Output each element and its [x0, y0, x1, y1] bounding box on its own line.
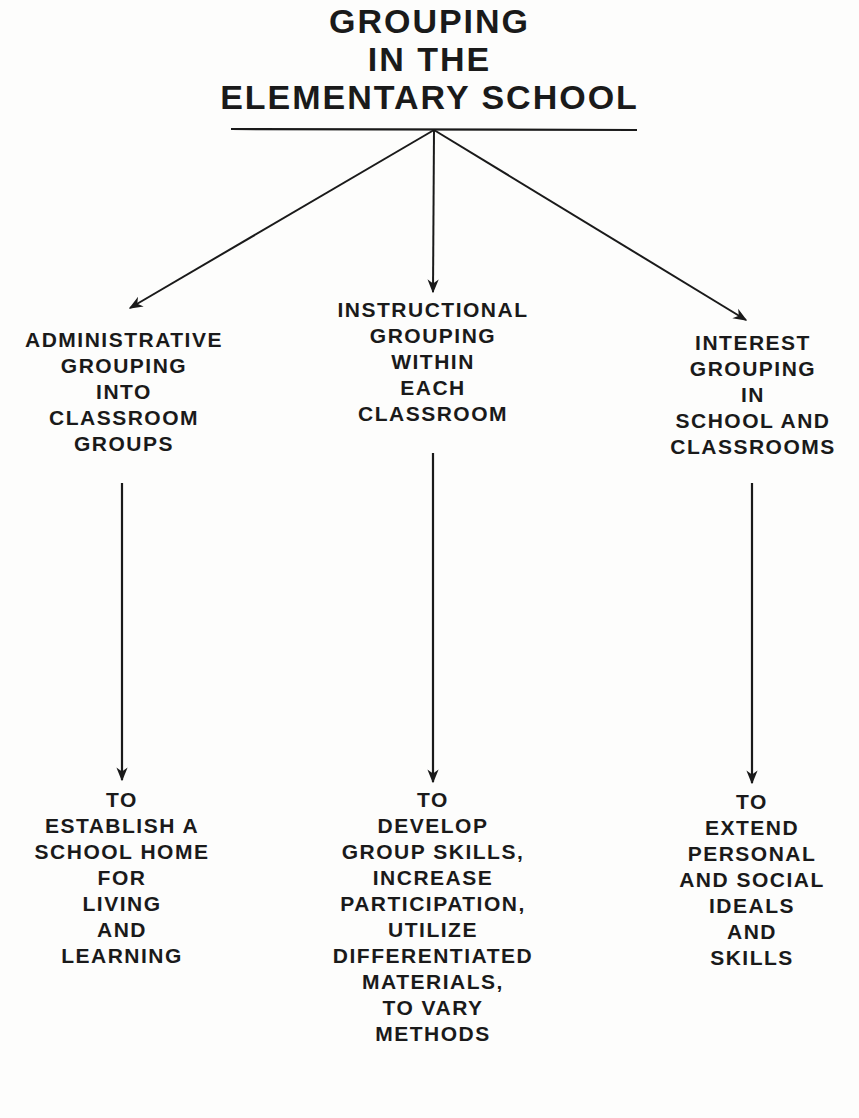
arrow-to-administrative: [130, 130, 434, 308]
node-line: IDEALS: [648, 893, 856, 919]
node-line: SKILLS: [648, 945, 856, 971]
node-line: GROUP SKILLS,: [290, 839, 576, 865]
node-line: LEARNING: [2, 943, 242, 969]
node-line: ESTABLISH A: [2, 813, 242, 839]
node-line: METHODS: [290, 1021, 576, 1047]
node-line: INTEREST: [650, 330, 856, 356]
node-line: SCHOOL HOME: [2, 839, 242, 865]
node-line: CLASSROOM: [293, 401, 573, 427]
node-line: GROUPING: [650, 356, 856, 382]
node-line: UTILIZE: [290, 917, 576, 943]
node-instructional-purpose: TO DEVELOP GROUP SKILLS, INCREASE PARTIC…: [290, 787, 576, 1047]
node-line: WITHIN: [293, 349, 573, 375]
node-line: CLASSROOM: [2, 405, 246, 431]
node-line: AND: [2, 917, 242, 943]
node-administrative-grouping: ADMINISTRATIVE GROUPING INTO CLASSROOM G…: [2, 327, 246, 457]
node-line: SCHOOL AND: [650, 408, 856, 434]
node-line: GROUPING: [293, 323, 573, 349]
node-line: IN: [650, 382, 856, 408]
node-interest-purpose: TO EXTEND PERSONAL AND SOCIAL IDEALS AND…: [648, 789, 856, 971]
title-underline: [231, 129, 637, 130]
node-line: AND: [648, 919, 856, 945]
node-line: AND SOCIAL: [648, 867, 856, 893]
node-instructional-grouping: INSTRUCTIONAL GROUPING WITHIN EACH CLASS…: [293, 297, 573, 427]
node-interest-grouping: INTEREST GROUPING IN SCHOOL AND CLASSROO…: [650, 330, 856, 460]
node-line: INTO: [2, 379, 246, 405]
node-line: LIVING: [2, 891, 242, 917]
node-line: DEVELOP: [290, 813, 576, 839]
node-line: EACH: [293, 375, 573, 401]
node-line: TO: [2, 787, 242, 813]
arrow-to-instructional: [433, 130, 434, 292]
node-line: INSTRUCTIONAL: [293, 297, 573, 323]
arrow-to-interest: [434, 130, 746, 320]
node-line: PARTICIPATION,: [290, 891, 576, 917]
node-line: ADMINISTRATIVE: [2, 327, 246, 353]
node-administrative-purpose: TO ESTABLISH A SCHOOL HOME FOR LIVING AN…: [2, 787, 242, 969]
node-line: GROUPING: [2, 353, 246, 379]
node-line: INCREASE: [290, 865, 576, 891]
node-line: EXTEND: [648, 815, 856, 841]
node-line: DIFFERENTIATED: [290, 943, 576, 969]
node-line: TO: [290, 787, 576, 813]
node-line: TO VARY: [290, 995, 576, 1021]
node-line: CLASSROOMS: [650, 434, 856, 460]
node-line: MATERIALS,: [290, 969, 576, 995]
node-line: PERSONAL: [648, 841, 856, 867]
node-line: TO: [648, 789, 856, 815]
node-line: GROUPS: [2, 431, 246, 457]
node-line: FOR: [2, 865, 242, 891]
